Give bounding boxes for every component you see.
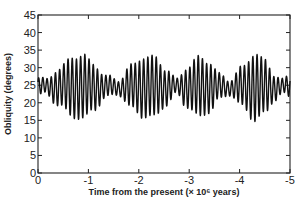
y-tick-label: 15: [24, 114, 36, 126]
x-tick-label: -2: [134, 174, 144, 186]
x-axis-title: Time from the present (× 10⁶ years): [89, 187, 240, 197]
y-tick-label: 30: [24, 62, 36, 74]
y-tick-label: 25: [24, 79, 36, 91]
y-tick-label: 20: [24, 97, 36, 109]
y-tick-label: 10: [24, 132, 36, 144]
x-tick-label: -5: [285, 174, 295, 186]
y-tick-label: 45: [24, 9, 36, 21]
x-tick-label: -3: [184, 174, 194, 186]
y-tick-label: 5: [30, 149, 36, 161]
x-tick-label: 0: [35, 174, 41, 186]
y-tick-label: 40: [24, 27, 36, 39]
x-tick-label: -4: [235, 174, 245, 186]
obliquity-series-line: [38, 54, 290, 121]
y-tick-label: 35: [24, 44, 36, 56]
x-tick-label: -1: [84, 174, 94, 186]
obliquity-chart: 051015202530354045 0-1-2-3-4-5 Obliquity…: [0, 0, 304, 205]
y-axis-title: Obliquity (degrees): [3, 53, 13, 135]
